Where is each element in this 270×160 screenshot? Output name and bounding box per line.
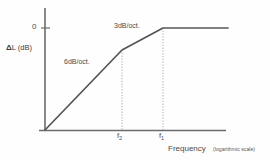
annotation-3db-per-oct: 3dB/oct. bbox=[114, 22, 140, 29]
annotation-6db-per-oct: 6dB/oct. bbox=[64, 58, 90, 65]
y-axis-title: ΔL (dB) bbox=[6, 44, 32, 52]
x-tick-label-f2-subscript: 2 bbox=[119, 135, 122, 141]
y-tick-label-zero: 0 bbox=[32, 23, 36, 31]
x-tick-label-f1: f1 bbox=[159, 132, 164, 140]
x-tick-label-f1-subscript: 1 bbox=[161, 135, 164, 141]
x-axis-scale-note: (logarithmic scale) bbox=[213, 147, 255, 152]
frequency-response-chart: ΔL (dB) 0 6dB/oct. 3dB/oct. f2 f1 Freque… bbox=[0, 0, 270, 160]
y-axis-title-text: L (dB) bbox=[12, 43, 32, 52]
x-tick-label-f2: f2 bbox=[117, 132, 122, 140]
x-axis-title: Frequency bbox=[168, 145, 206, 153]
response-curve bbox=[45, 28, 228, 130]
